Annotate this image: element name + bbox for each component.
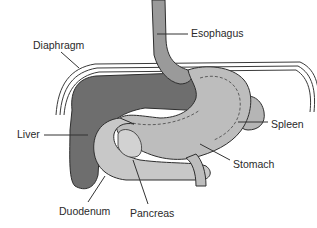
label-stomach: Stomach [233, 159, 274, 170]
anatomy-diagram [0, 0, 317, 228]
label-duodenum: Duodenum [59, 206, 110, 217]
label-diaphragm: Diaphragm [33, 40, 84, 51]
label-spleen: Spleen [271, 119, 304, 130]
label-esophagus: Esophagus [191, 28, 244, 39]
label-liver: Liver [17, 129, 40, 140]
label-pancreas: Pancreas [130, 208, 174, 219]
